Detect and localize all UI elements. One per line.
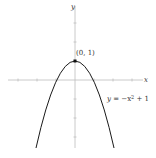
equation-mid: = −x: [111, 95, 131, 103]
vertex-label: (0, 1): [76, 49, 95, 57]
equation-end: + 1: [134, 95, 149, 103]
equation-label: y = −x2 + 1: [106, 94, 149, 104]
x-axis-label: x: [144, 76, 148, 84]
parabola-graph: y x (0, 1) y = −x2 + 1: [0, 0, 156, 158]
vertex-point: [74, 60, 77, 63]
